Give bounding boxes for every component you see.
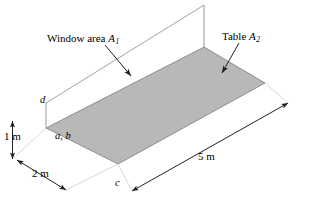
length-dimension-label: 5 m	[198, 151, 215, 162]
window-area-subscript: 1	[115, 37, 119, 46]
table-area-subscript: 2	[256, 35, 260, 44]
point-ab-label: a, b	[55, 131, 71, 142]
geometry-figure: Window area A1 Table A2 1 m 2 m 5 m d a,…	[0, 0, 309, 205]
table-area-label: Table A2	[222, 31, 260, 43]
height-dimension-label: 1 m	[4, 131, 21, 142]
table-area-label-text: Table	[222, 30, 249, 42]
point-d-label: d	[40, 95, 45, 106]
window-area-label-text: Window area	[47, 32, 108, 44]
window-area-symbol: A	[108, 32, 115, 44]
table-area-symbol: A	[249, 30, 256, 42]
window-area-label: Window area A1	[47, 33, 119, 45]
extension-line-bottom	[118, 164, 132, 191]
extension-line-right	[265, 83, 288, 103]
width-dimension-label: 2 m	[32, 168, 49, 179]
extension-line-corner	[66, 164, 118, 190]
point-c-label: c	[115, 178, 120, 189]
